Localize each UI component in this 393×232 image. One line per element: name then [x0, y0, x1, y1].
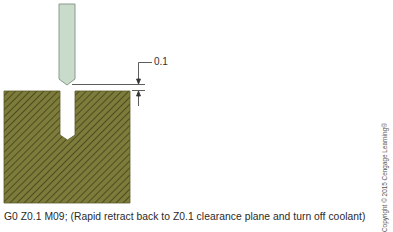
copyright-notice: Copyright © 2015 Cengage Learning® [381, 123, 388, 232]
arrow-down-icon [137, 79, 141, 84]
arrow-up-icon [137, 91, 141, 96]
dimension-label: 0.1 [154, 56, 168, 67]
gcode-caption: G0 Z0.1 M09; (Rapid retract back to Z0.1… [4, 211, 365, 222]
workpiece-stock [4, 91, 130, 203]
cnc-diagram [0, 0, 393, 232]
drill-tool [59, 4, 75, 85]
